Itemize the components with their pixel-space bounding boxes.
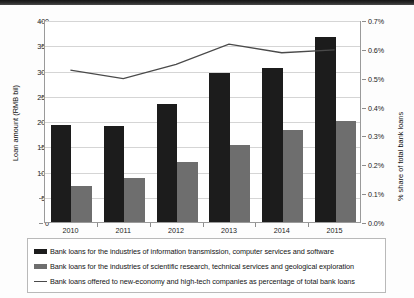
secondary-y-axis-tick-label: 0.4% <box>368 103 408 112</box>
legend-item-label: Bank loans for the industries of scienti… <box>50 262 354 271</box>
y-axis-tick-mark <box>39 173 43 174</box>
secondary-y-axis-tick-mark <box>362 165 366 166</box>
chart-legend: Bank loans for the industries of informa… <box>27 238 386 293</box>
x-axis-tick-label: 2011 <box>116 226 131 235</box>
gray-square-swatch-icon <box>34 264 47 269</box>
x-axis-tick-mark <box>203 223 204 227</box>
y-axis-tick-mark <box>39 122 43 123</box>
secondary-y-axis-tick-label: 0.0% <box>368 219 408 228</box>
secondary-y-axis-tick-mark <box>362 108 366 109</box>
chart-figure: Loan amount (RMB bil) % share of total b… <box>0 5 414 298</box>
legend-item-label: Bank loans offered to new-economy and hi… <box>50 277 355 286</box>
x-axis-tick-mark <box>150 223 151 227</box>
x-axis-tick-label: 2012 <box>168 226 184 235</box>
secondary-y-axis-tick-mark <box>362 21 366 22</box>
x-axis-tick-label: 2014 <box>274 226 290 235</box>
secondary-y-axis-tick-mark <box>362 50 366 51</box>
y-axis-tick-label: 200 <box>9 118 49 127</box>
y-axis-tick-mark <box>39 46 43 47</box>
y-axis-tick-mark <box>39 198 43 199</box>
x-axis-tick-label: 2015 <box>327 226 343 235</box>
y-axis-tick-mark <box>39 21 43 22</box>
y-axis-tick-mark <box>39 147 43 148</box>
y-axis-tick-mark <box>39 72 43 73</box>
legend-item-label: Bank loans for the industries of informa… <box>50 247 334 256</box>
secondary-y-axis-tick-mark <box>362 79 366 80</box>
y-axis-tick-label: 50 <box>9 193 49 202</box>
secondary-y-axis-tick-mark <box>362 136 366 137</box>
legend-item: Bank loans for the industries of scienti… <box>34 259 381 274</box>
secondary-y-axis-tick-mark <box>362 223 366 224</box>
x-axis-tick-label: 2013 <box>221 226 237 235</box>
y-axis-tick-label: 0 <box>9 219 49 228</box>
y-axis-tick-label: 150 <box>9 143 49 152</box>
secondary-y-axis-tick-label: 0.2% <box>368 161 408 170</box>
x-axis-tick-mark <box>97 223 98 227</box>
legend-item: Bank loans for the industries of informa… <box>34 244 381 259</box>
plot-area-wrapper: Loan amount (RMB bil) % share of total b… <box>0 5 414 237</box>
legend-item: Bank loans offered to new-economy and hi… <box>34 274 381 289</box>
x-axis-tick-label: 2010 <box>62 226 78 235</box>
y-axis-tick-label: 300 <box>9 67 49 76</box>
secondary-y-axis-tick-label: 0.5% <box>368 74 408 83</box>
y-axis-tick-label: 400 <box>9 17 49 26</box>
line-swatch-icon <box>34 281 47 282</box>
secondary-y-axis-tick-mark <box>362 194 366 195</box>
x-axis-tick-mark <box>308 223 309 227</box>
x-axis-tick-mark <box>255 223 256 227</box>
line-series <box>44 21 361 223</box>
black-square-swatch-icon <box>34 249 47 254</box>
y-axis-tick-label: 350 <box>9 42 49 51</box>
y-axis-tick-label: 100 <box>9 168 49 177</box>
y-axis-tick-mark <box>39 97 43 98</box>
y-axis-tick-mark <box>39 223 43 224</box>
secondary-y-axis-tick-label: 0.3% <box>368 132 408 141</box>
secondary-y-axis-tick-label: 0.1% <box>368 190 408 199</box>
y-axis-tick-label: 250 <box>9 92 49 101</box>
secondary-y-axis-tick-label: 0.7% <box>368 17 408 26</box>
secondary-y-axis-tick-label: 0.6% <box>368 45 408 54</box>
